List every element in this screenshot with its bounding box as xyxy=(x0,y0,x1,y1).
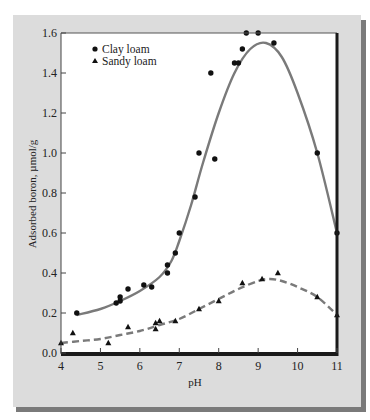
clay-loam-point xyxy=(315,150,320,155)
y-tick-label: 0.0 xyxy=(42,346,57,360)
y-tick-label: 1.0 xyxy=(42,146,57,160)
y-tick-label: 0.6 xyxy=(42,226,57,240)
clay-loam-point xyxy=(212,156,217,161)
x-tick-label: 5 xyxy=(97,359,103,373)
plot-area xyxy=(61,33,337,353)
x-axis-title: pH xyxy=(188,376,202,388)
y-axis-title: Adsorbed boron, µmol/g xyxy=(26,139,38,248)
clay-loam-point xyxy=(196,150,201,155)
legend-label-sandy-loam: Sandy loam xyxy=(102,55,157,68)
legend: Clay loam Sandy loam xyxy=(92,43,157,68)
x-tick-label: 7 xyxy=(176,359,182,373)
clay-loam-point xyxy=(165,262,170,267)
x-tick-label: 8 xyxy=(216,359,222,373)
clay-loam-point xyxy=(173,250,178,255)
clay-loam-point xyxy=(177,230,182,235)
x-tick-label: 10 xyxy=(292,359,304,373)
y-tick-label: 1.2 xyxy=(42,106,57,120)
clay-loam-point xyxy=(208,70,213,75)
clay-loam-point xyxy=(117,294,122,299)
circle-marker-icon xyxy=(92,46,97,51)
clay-loam-point xyxy=(165,270,170,275)
x-tick-label: 9 xyxy=(255,359,261,373)
chart: 0.00.20.40.60.81.01.21.41.6 4567891011 C… xyxy=(0,0,370,420)
clay-loam-point xyxy=(74,310,79,315)
y-tick-label: 0.2 xyxy=(42,306,57,320)
y-tick-label: 1.4 xyxy=(42,66,57,80)
clay-loam-point xyxy=(240,46,245,51)
x-tick-label: 11 xyxy=(331,359,343,373)
clay-loam-point xyxy=(192,194,197,199)
x-tick-label: 6 xyxy=(137,359,143,373)
clay-loam-point xyxy=(271,40,276,45)
clay-loam-point xyxy=(125,286,130,291)
clay-loam-point xyxy=(141,282,146,287)
y-tick-label: 1.6 xyxy=(42,26,57,40)
y-tick-label: 0.8 xyxy=(42,186,57,200)
y-tick-label: 0.4 xyxy=(42,266,57,280)
clay-loam-point xyxy=(236,60,241,65)
x-tick-label: 4 xyxy=(58,359,64,373)
clay-loam-point xyxy=(149,284,154,289)
